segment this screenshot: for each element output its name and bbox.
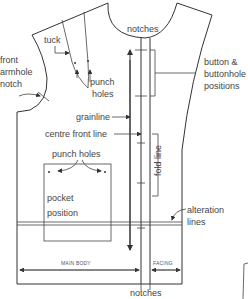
button-label-1: button & bbox=[204, 57, 238, 67]
alteration-label-2: lines bbox=[187, 217, 206, 227]
button-label-3: positions bbox=[204, 81, 240, 91]
alteration-label-1: alteration bbox=[187, 205, 224, 215]
front-armhole-notch-label-2: armhole bbox=[0, 67, 33, 77]
fold-line-label: fold line bbox=[153, 145, 163, 176]
button-bracket bbox=[150, 50, 155, 96]
button-label-2: buttonhole bbox=[204, 69, 246, 79]
notches-top-label: notches bbox=[127, 24, 159, 34]
pattern-outline bbox=[17, 3, 212, 284]
notches-bottom-label: notches bbox=[130, 288, 162, 298]
punch-hole-right bbox=[87, 60, 89, 62]
pocket-label-1: pocket bbox=[47, 193, 74, 203]
grainline-label: grainline bbox=[76, 112, 110, 122]
pattern-diagram: tuck front armhole notch punch holes not… bbox=[0, 0, 248, 299]
pocket-punch-arrow-right bbox=[82, 160, 101, 171]
armhole-notch-arrow bbox=[19, 94, 40, 96]
pocket-punch-hole-right bbox=[104, 171, 106, 173]
tuck-label: tuck bbox=[44, 35, 61, 45]
alteration-arrow bbox=[172, 209, 186, 220]
punch-holes-label-1: punch bbox=[90, 77, 115, 87]
tuck-line-left bbox=[62, 20, 88, 88]
tuck-arrow bbox=[55, 46, 69, 53]
front-armhole-notch-label-3: notch bbox=[0, 79, 22, 89]
front-armhole-notch-label-1: front bbox=[0, 55, 19, 65]
armhole-notch-mark bbox=[38, 92, 49, 101]
punch-hole-left bbox=[74, 62, 76, 64]
tuck-line-right bbox=[84, 12, 89, 88]
pocket-punch-holes-label: punch holes bbox=[52, 149, 101, 159]
main-body-label: MAIN BODY bbox=[61, 260, 91, 266]
pocket-punch-arrow-left bbox=[58, 160, 78, 171]
pocket-punch-hole-left bbox=[48, 171, 50, 173]
pocket-label-2: position bbox=[47, 208, 78, 218]
centre-front-line-label: centre front line bbox=[45, 129, 107, 139]
punch-holes-label-2: holes bbox=[92, 89, 114, 99]
adjacent-piece-edge bbox=[243, 263, 248, 299]
facing-label: FACING bbox=[153, 260, 173, 266]
